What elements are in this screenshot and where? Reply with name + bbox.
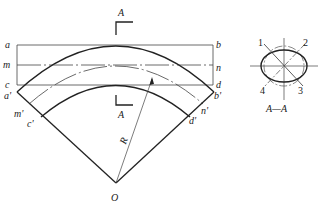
label-n-prime: n'	[201, 105, 209, 116]
label-n: n	[216, 62, 221, 73]
label-m-prime: m'	[14, 108, 24, 119]
label-point-1: 1	[258, 37, 263, 48]
label-m: m	[3, 59, 10, 70]
section-caption: A—A	[265, 103, 288, 114]
label-point-2: 2	[303, 37, 308, 48]
label-d-prime: d'	[189, 115, 197, 126]
label-c-prime: c'	[27, 118, 34, 129]
radius-arrowhead	[150, 77, 155, 85]
label-a: a	[5, 39, 10, 50]
label-section-top: A	[117, 7, 125, 18]
pipe-bend-diagram: a m c a' m' c' b n d b' n' d' A A R O 1 …	[0, 0, 320, 209]
radial-left	[17, 92, 116, 183]
label-radius: R	[117, 136, 130, 146]
label-point-4: 4	[260, 85, 265, 96]
label-b-prime: b'	[214, 90, 222, 101]
section-marker-bottom	[116, 95, 133, 105]
label-section-bottom: A	[117, 109, 125, 120]
label-a-prime: a'	[4, 90, 12, 101]
label-center-o: O	[111, 192, 118, 203]
label-c: c	[5, 79, 10, 90]
section-view: 1 2 3 4 A—A	[250, 37, 318, 114]
label-d: d	[216, 79, 222, 90]
section-marker-top	[116, 22, 133, 35]
radius-line	[116, 79, 152, 183]
label-point-3: 3	[298, 85, 303, 96]
label-b: b	[216, 39, 221, 50]
